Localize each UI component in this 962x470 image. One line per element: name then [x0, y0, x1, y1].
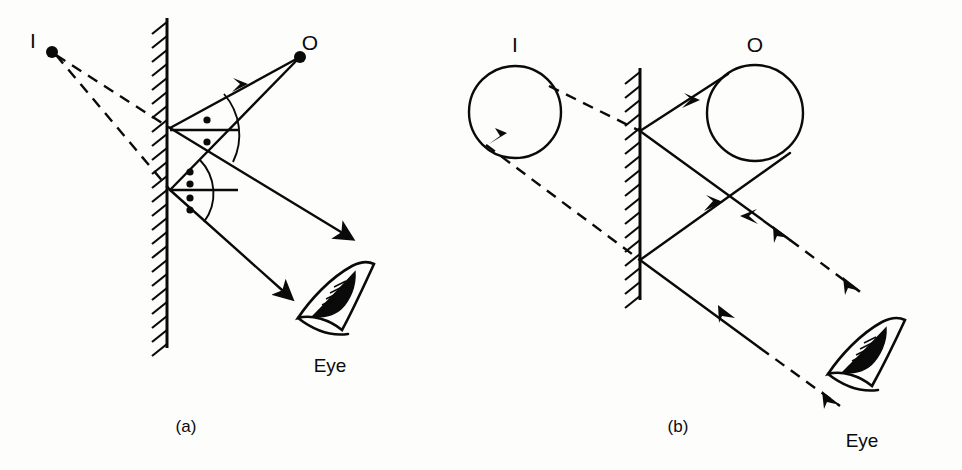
image-point-a [46, 46, 58, 58]
eye-label-a: Eye [314, 355, 347, 376]
figure-canvas: Eye I O (a) [0, 0, 962, 470]
angle-dot-incidence-lower-1 [186, 168, 193, 175]
panel-a: Eye I O (a) [30, 18, 374, 436]
eye-b: Eye [828, 318, 905, 451]
image-label-a: I [30, 29, 36, 52]
image-circle-b [469, 66, 561, 158]
panel-b-caption: (b) [668, 417, 689, 436]
mirror-hatching-a [152, 22, 167, 356]
angle-dot-reflection-upper [203, 138, 210, 145]
reflected-rays-a [170, 128, 341, 290]
panel-a-caption: (a) [176, 417, 197, 436]
angle-dot-incidence-lower-2 [186, 180, 193, 187]
object-label-b: O [747, 33, 763, 56]
image-label-b: I [512, 33, 518, 56]
object-label-a: O [302, 31, 318, 54]
panel-b: Eye I O (b) [469, 33, 905, 451]
mirror-b [625, 68, 640, 308]
incident-rays-b [640, 74, 790, 260]
optics-figure: Eye I O (a) [0, 0, 962, 470]
eye-a: Eye [298, 262, 374, 376]
virtual-rays-b [486, 86, 640, 260]
eye-label-b: Eye [846, 430, 879, 451]
mirror-hatching-b [625, 72, 640, 308]
angle-dot-reflection-lower-1 [186, 194, 193, 201]
angle-dot-incidence-upper [203, 116, 210, 123]
reflected-rays-b [640, 131, 860, 406]
mirror-a [152, 18, 167, 356]
angle-dot-reflection-lower-2 [186, 206, 193, 213]
